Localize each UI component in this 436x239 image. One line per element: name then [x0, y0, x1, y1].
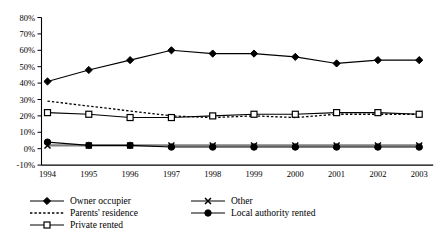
y-axis-tick-label: 60%: [19, 45, 35, 55]
marker-filled-circle: [44, 139, 50, 145]
marker-filled-circle: [127, 142, 133, 148]
x-axis-tick-label: 1997: [163, 169, 180, 179]
marker-open-square: [292, 111, 298, 117]
y-axis-tick-label: 10%: [19, 127, 35, 137]
x-axis-tick-label: 1996: [122, 169, 139, 179]
y-axis-tick-label: 70%: [19, 29, 35, 39]
series-line: [48, 50, 420, 81]
x-axis-tick-label: 2002: [369, 169, 386, 179]
y-axis-tick-label: 30%: [19, 95, 35, 105]
marker-open-square: [375, 110, 381, 116]
marker-open-square: [168, 115, 174, 121]
x-axis-tick-label: 1999: [246, 169, 263, 179]
y-axis: 80%70%60%50%40%30%20%10%0%-10%: [17, 13, 42, 171]
x-axis-tick-label: 2003: [411, 169, 428, 179]
marker-filled-diamond: [44, 78, 51, 85]
y-axis-tick-label: 80%: [19, 13, 35, 23]
data-series-group: [44, 47, 423, 151]
marker-open-square: [127, 115, 133, 121]
marker-filled-diamond: [416, 57, 423, 64]
y-axis-tick-label: -10%: [17, 160, 35, 170]
marker-filled-circle: [205, 210, 211, 216]
marker-filled-diamond: [127, 57, 134, 64]
chart-legend: Owner occupierParents' residencePrivate …: [30, 196, 316, 230]
y-axis-tick-label: 50%: [19, 62, 35, 72]
marker-filled-circle: [375, 144, 381, 150]
marker-open-square: [416, 111, 422, 117]
legend-item-other: Other: [191, 196, 253, 206]
marker-open-square: [334, 110, 340, 116]
marker-filled-diamond: [168, 47, 175, 54]
marker-filled-diamond: [374, 57, 381, 64]
x-axis-tick-label: 1998: [204, 169, 221, 179]
x-axis-tick-label: 1995: [80, 169, 97, 179]
marker-open-square: [45, 110, 51, 116]
legend-item-parents-residence: Parents' residence: [30, 208, 138, 218]
legend-label: Parents' residence: [70, 208, 138, 218]
marker-filled-circle: [333, 144, 339, 150]
y-axis-tick-label: 0%: [24, 144, 35, 154]
legend-label: Local authority rented: [231, 208, 316, 218]
y-axis-tick-label: 20%: [19, 111, 35, 121]
marker-filled-circle: [251, 144, 257, 150]
marker-filled-circle: [292, 144, 298, 150]
legend-item-owner-occupier: Owner occupier: [30, 196, 132, 206]
legend-item-private-rented: Private rented: [30, 220, 123, 230]
marker-filled-diamond: [333, 60, 340, 67]
marker-filled-diamond: [250, 50, 257, 57]
marker-filled-circle: [416, 144, 422, 150]
line-chart: 80%70%60%50%40%30%20%10%0%-10% 199419951…: [0, 0, 436, 239]
marker-filled-diamond: [209, 50, 216, 57]
marker-filled-circle: [86, 142, 92, 148]
legend-label: Owner occupier: [70, 196, 132, 206]
marker-open-square: [251, 111, 257, 117]
x-axis: 1994199519961997199819992000200120022003: [39, 165, 433, 179]
chart-canvas: 80%70%60%50%40%30%20%10%0%-10% 199419951…: [0, 0, 436, 239]
marker-open-square: [210, 113, 216, 119]
marker-filled-diamond: [43, 197, 50, 204]
legend-label: Other: [231, 196, 253, 206]
marker-open-square: [44, 222, 50, 228]
y-axis-tick-label: 40%: [19, 78, 35, 88]
series-private-rented: [45, 110, 423, 121]
legend-label: Private rented: [70, 220, 123, 230]
x-axis-tick-label: 2001: [328, 169, 345, 179]
x-axis-tick-label: 2000: [287, 169, 304, 179]
marker-open-square: [86, 111, 92, 117]
series-owner-occupier: [44, 47, 423, 85]
marker-filled-circle: [168, 144, 174, 150]
legend-item-local-authority-rented: Local authority rented: [191, 208, 316, 218]
marker-filled-diamond: [292, 53, 299, 60]
marker-filled-circle: [210, 144, 216, 150]
x-axis-tick-label: 1994: [39, 169, 57, 179]
marker-filled-diamond: [85, 66, 92, 73]
